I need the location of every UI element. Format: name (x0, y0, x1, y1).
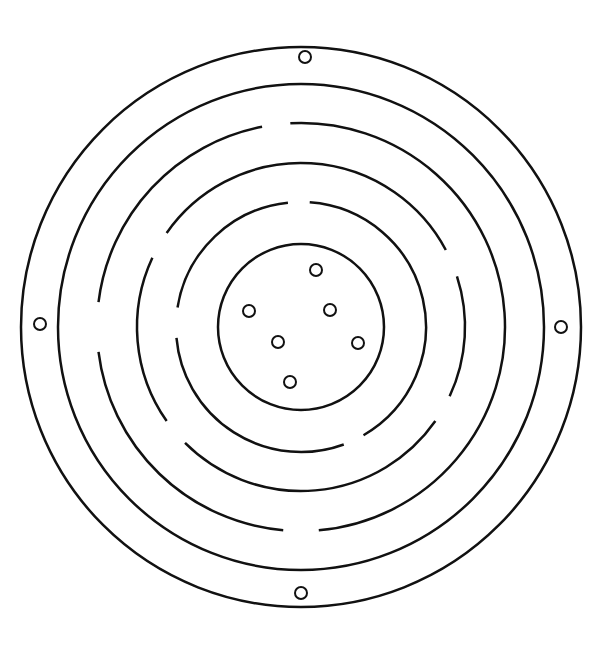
ring-3-segment (185, 421, 435, 491)
hole-icon (352, 337, 364, 349)
ring-0 (21, 47, 581, 607)
hole-icon (299, 51, 311, 63)
ring-2-segment (99, 352, 284, 530)
ring-1 (58, 84, 544, 570)
ring-4-segment (178, 203, 288, 308)
hole-icon (34, 318, 46, 330)
ring-maze-diagram (0, 0, 613, 649)
ring-3-segment (167, 163, 446, 250)
ring-5 (218, 244, 384, 410)
ring-4-segment (310, 202, 426, 435)
ring-3-segment (450, 276, 465, 396)
hole-icon (555, 321, 567, 333)
hole-icon (243, 305, 255, 317)
ring-2-segment (290, 123, 505, 530)
hole-icon (272, 336, 284, 348)
hole-icon (295, 587, 307, 599)
ring-3-segment (137, 258, 167, 421)
ring-4-segment (176, 338, 343, 452)
hole-icon (324, 304, 336, 316)
hole-icon (284, 376, 296, 388)
hole-icon (310, 264, 322, 276)
